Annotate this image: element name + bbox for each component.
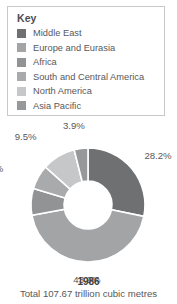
legend-item-north-america[interactable]: North America <box>17 84 164 99</box>
legend-swatch-south-and-central-america <box>17 72 26 81</box>
donut-slice-group <box>31 148 145 262</box>
legend-item-europe-and-eurasia[interactable]: Europe and Eurasia <box>17 41 164 56</box>
legend-label-africa: Africa <box>33 57 57 67</box>
legend-item-africa[interactable]: Africa <box>17 55 164 70</box>
legend-label-south-and-central-america: South and Central America <box>33 72 144 82</box>
donut-percentage-label: 3.9% <box>63 121 85 131</box>
legend-panel: Key Middle East Europe and Eurasia Afric… <box>7 6 165 116</box>
caption-total: Total 107.67 trillion cubic metres <box>0 288 177 300</box>
legend-label-north-america: North America <box>33 86 92 96</box>
legend-swatch-europe-and-eurasia <box>17 43 26 52</box>
legend-label-asia-pacific: Asia Pacific <box>33 101 81 111</box>
donut-slice[interactable] <box>88 148 145 216</box>
chart-caption: 1986 Total 107.67 trillion cubic metres <box>0 276 177 300</box>
legend-label-middle-east: Middle East <box>33 28 82 38</box>
legend-swatch-asia-pacific <box>17 101 26 110</box>
legend-item-middle-east[interactable]: Middle East <box>17 26 164 41</box>
legend-item-asia-pacific[interactable]: Asia Pacific <box>17 99 164 114</box>
caption-year: 1986 <box>0 276 177 288</box>
legend-label-europe-and-eurasia: Europe and Eurasia <box>33 43 115 53</box>
donut-slice[interactable] <box>32 209 144 262</box>
donut-percentage-label: 28.2% <box>144 151 171 161</box>
legend-title: Key <box>17 12 164 24</box>
legend-swatch-middle-east <box>17 29 26 38</box>
donut-percentage-label: 9.5% <box>15 132 37 142</box>
legend-item-south-and-central-america[interactable]: South and Central America <box>17 70 164 85</box>
donut-chart: 28.2%43.9%7.6%6.9%9.5%3.9% <box>0 118 177 276</box>
legend-swatch-africa <box>17 58 26 67</box>
legend-swatch-north-america <box>17 87 26 96</box>
donut-percentage-label: 6.9% <box>0 164 3 174</box>
